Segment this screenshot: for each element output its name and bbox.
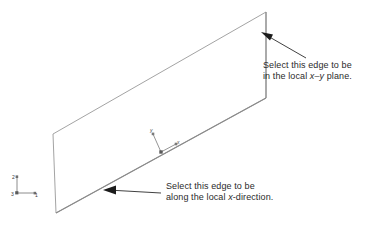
global-triad (15, 175, 36, 194)
callout-xy-plane-line1: Select this edge to be (263, 60, 352, 71)
callout-x-direction-line2-prefix: along the local (166, 192, 228, 202)
callout-xy-plane-line2: in the local x–y plane. (263, 71, 352, 82)
callout-xy-plane-line2-prefix: in the local (263, 71, 310, 81)
callout-xy-plane-line2-suffix: plane. (324, 71, 352, 81)
leader-line-xy-plane (266, 35, 306, 58)
global-axis-label-3: 3 (11, 192, 14, 197)
local-axis-label-y: y (150, 128, 153, 133)
global-axis-3-origin-marker (15, 191, 18, 194)
callout-x-direction-line2-suffix: -direction. (233, 192, 274, 202)
callout-xy-plane-line2-italic: x–y (310, 71, 324, 81)
arrowhead-x-direction (103, 186, 116, 195)
leader-xy-plane (261, 32, 306, 58)
figure-canvas: Select this edge to be in the local x–y … (0, 0, 381, 233)
global-axis-2-tick (16, 175, 19, 178)
local-axis-label-x: x (177, 140, 180, 145)
callout-x-direction-line2: along the local x-direction. (166, 192, 273, 203)
callout-x-direction-line1: Select this edge to be (166, 181, 273, 192)
global-axis-label-2: 2 (12, 175, 15, 180)
leader-x-direction (103, 186, 161, 195)
callout-xy-plane: Select this edge to be in the local x–y … (263, 60, 352, 82)
local-triad-origin-marker (159, 150, 162, 153)
callout-x-direction: Select this edge to be along the local x… (166, 181, 273, 203)
global-axis-label-1: 1 (35, 193, 38, 198)
